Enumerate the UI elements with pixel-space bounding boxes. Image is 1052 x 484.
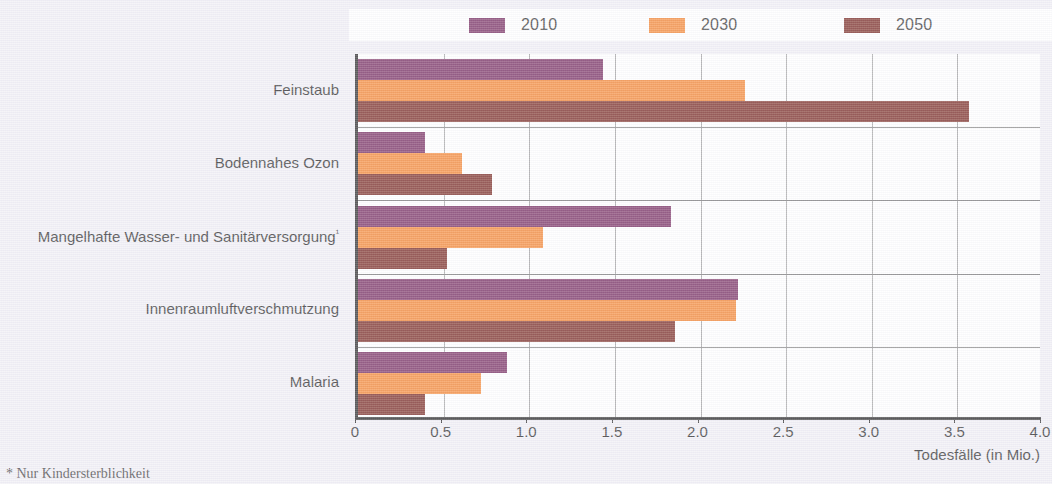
footnote-marker: ¹ [336,227,339,238]
bar [358,153,462,174]
legend-label-2030: 2030 [701,16,737,34]
category-label: Malaria [0,373,347,390]
x-tick-mark [954,417,955,423]
x-tick-label: 3.5 [944,423,965,440]
x-tick-label: 0 [351,423,359,440]
bar [358,80,745,101]
category-label: Mangelhafte Wasser- und Sanitärversorgun… [0,227,347,245]
x-axis-label: Todesfälle (in Mio.) [914,446,1040,463]
bar [358,227,543,248]
legend-item-2010: 2010 [469,16,557,34]
x-axis: 00.51.01.52.02.53.03.54.0 [355,423,1040,447]
category-label: Feinstaub [0,81,347,98]
category-separator [358,200,1040,201]
legend-swatch-2050 [844,18,880,33]
bar [358,300,736,321]
x-tick-label: 2.5 [773,423,794,440]
chart-legend: 2010 2030 2050 [349,9,1052,41]
x-tick-label: 1.0 [516,423,537,440]
legend-label-2050: 2050 [896,16,932,34]
bar [358,101,969,122]
x-tick-mark [526,417,527,423]
bar [358,248,447,269]
x-tick-mark [355,417,356,423]
x-tick-mark [783,417,784,423]
bar [358,394,425,415]
x-tick-label: 2.0 [687,423,708,440]
x-tick-mark [1040,417,1041,423]
category-label: Bodennahes Ozon [0,154,347,171]
x-tick-label: 0.5 [430,423,451,440]
bar [358,59,603,80]
category-axis-labels: FeinstaubBodennahes OzonMangelhafte Wass… [0,54,347,420]
bar [358,132,425,153]
legend-item-2030: 2030 [649,16,737,34]
category-separator [358,347,1040,348]
bar [358,321,675,342]
x-tick-mark [441,417,442,423]
bar [358,174,492,195]
bar [358,373,481,394]
legend-swatch-2010 [469,18,505,33]
x-tick-label: 1.5 [601,423,622,440]
x-tick-mark [612,417,613,423]
category-label: Innenraumluftverschmutzung [0,300,347,317]
x-tick-label: 3.0 [858,423,879,440]
footnote: * Nur Kindersterblichkeit [6,466,150,482]
legend-label-2010: 2010 [521,16,557,34]
bar [358,206,671,227]
x-tick-mark [698,417,699,423]
bar [358,279,738,300]
category-separator [358,127,1040,128]
legend-swatch-2030 [649,18,685,33]
legend-item-2050: 2050 [844,16,932,34]
category-separator [358,274,1040,275]
x-tick-mark [869,417,870,423]
x-tick-label: 4.0 [1030,423,1051,440]
chart-container: 2010 2030 2050 FeinstaubBodennahes OzonM… [0,0,1052,484]
plot-area [355,54,1040,420]
bar [358,352,507,373]
plot-inner [358,54,1040,417]
